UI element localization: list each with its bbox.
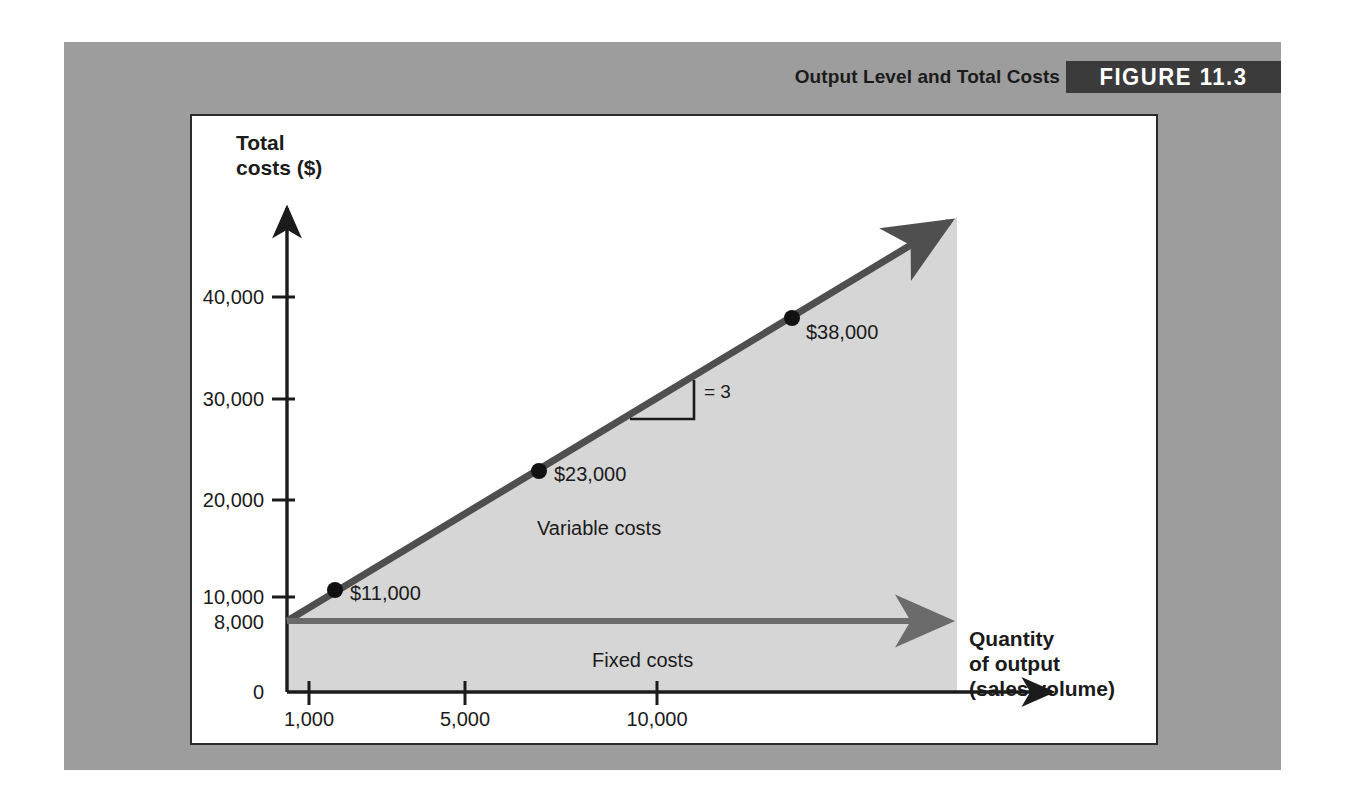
y-tick-label-fixed-cost: 8,000 (164, 611, 264, 634)
x-axis-title-line-3: (sales volume) (969, 676, 1115, 701)
x-axis-title-line-1: Quantity (969, 626, 1115, 651)
x-tick-label-5000: 5,000 (410, 708, 520, 731)
y-axis-title: Total costs ($) (236, 130, 322, 180)
data-point-dot (784, 310, 800, 326)
chart-card: Total costs ($) Quantity of output (sale… (190, 114, 1158, 745)
x-tick-label-1000: 1,000 (254, 708, 364, 731)
y-tick-label-30000: 30,000 (164, 388, 264, 411)
x-axis-title-line-2: of output (969, 651, 1115, 676)
data-point-dot (531, 463, 547, 479)
y-axis-title-line-2: costs ($) (236, 155, 322, 180)
figure-number-badge: FIGURE 11.3 (1066, 61, 1281, 93)
data-point-label-38000: $38,000 (806, 321, 878, 344)
data-point-dot (327, 582, 343, 598)
y-axis-title-line-1: Total (236, 130, 322, 155)
slope-annotation-label: = 3 (704, 381, 731, 403)
fixed-costs-label: Fixed costs (592, 649, 693, 672)
figure-page: Output Level and Total Costs FIGURE 11.3 (0, 0, 1349, 811)
origin-tick-label: 0 (216, 681, 264, 704)
data-point-label-23000: $23,000 (554, 463, 626, 486)
y-tick-label-40000: 40,000 (164, 286, 264, 309)
figure-title: Output Level and Total Costs (640, 62, 1060, 92)
x-tick-label-10000: 10,000 (597, 708, 717, 731)
data-point-label-11000: $11,000 (350, 582, 421, 605)
x-axis-title: Quantity of output (sales volume) (969, 626, 1115, 701)
variable-costs-label: Variable costs (537, 517, 661, 540)
y-tick-label-10000: 10,000 (164, 586, 264, 609)
y-tick-label-20000: 20,000 (164, 489, 264, 512)
figure-number-label: FIGURE 11.3 (1070, 61, 1276, 93)
